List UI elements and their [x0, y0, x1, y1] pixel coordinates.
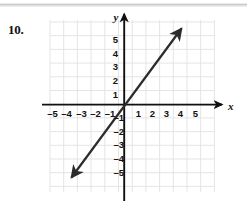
y-tick-label: 4 [113, 48, 119, 59]
x-tick-label: 2 [150, 108, 155, 119]
y-tick-label: 2 [113, 75, 118, 86]
x-tick-label: 1 [136, 108, 142, 119]
worksheet-page: 10. [0, 0, 247, 216]
x-tick-label: 5 [193, 108, 199, 119]
x-tick-label: –4 [61, 108, 72, 119]
y-tick-label: 5 [113, 34, 119, 45]
y-tick-label: –2 [113, 126, 124, 137]
y-tick-label: –4 [113, 153, 124, 164]
x-tick-label: 4 [178, 108, 184, 119]
x-tick-label: –3 [76, 108, 87, 119]
grid-lines [50, 20, 214, 192]
y-axis-label: y [112, 11, 119, 23]
x-tick-label: 3 [164, 108, 169, 119]
y-tick-label: –5 [113, 167, 124, 178]
y-tick-label: 3 [113, 61, 118, 72]
y-tick-label: –3 [113, 139, 124, 150]
y-tick-label: 1 [113, 89, 119, 100]
y-tick-label: –1 [113, 112, 124, 123]
plotted-line [72, 29, 182, 178]
coordinate-graph: y x –5 –4 –3 –2 –1 1 2 3 4 5 5 4 3 2 [0, 0, 247, 216]
x-axis-label: x [227, 100, 234, 112]
x-tick-label: –5 [47, 108, 58, 119]
graph-svg: y x –5 –4 –3 –2 –1 1 2 3 4 5 5 4 3 2 [0, 0, 247, 216]
x-tick-label: –2 [90, 108, 101, 119]
